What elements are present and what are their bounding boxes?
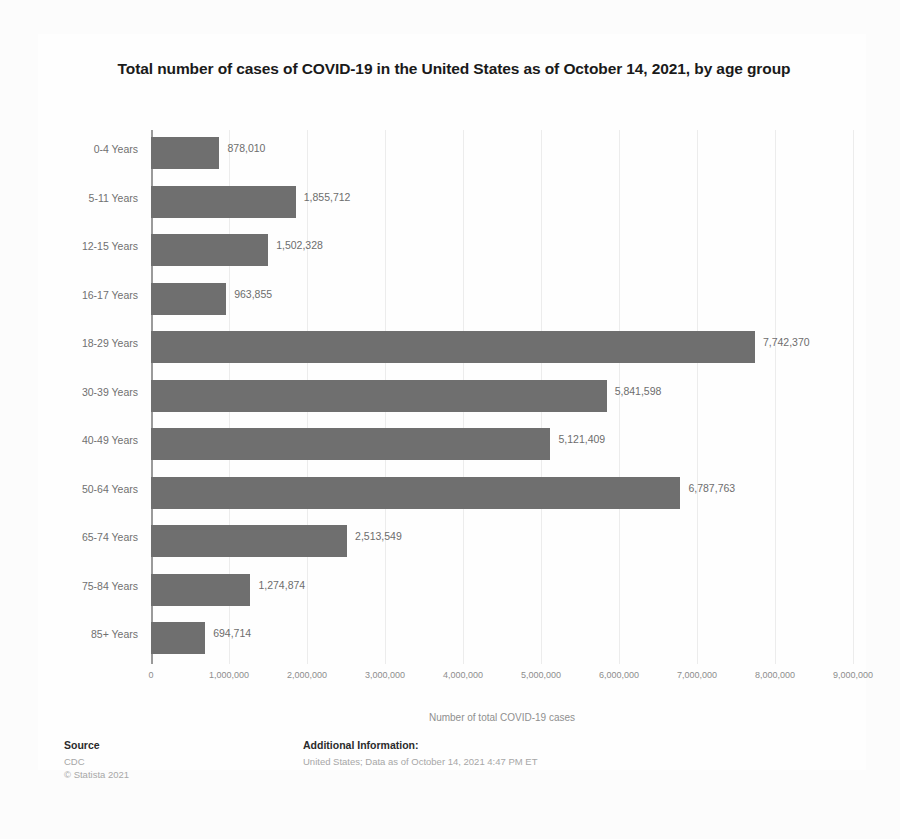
- copyright-text: © Statista 2021: [64, 768, 294, 781]
- y-axis-tick-text: 65-74 Years: [38, 531, 138, 543]
- bar-series: 878,0101,855,7121,502,328963,8557,742,37…: [151, 130, 853, 664]
- bar[interactable]: [151, 234, 268, 266]
- x-axis-tick-label: 2,000,000: [287, 670, 327, 680]
- y-axis-tick-text: 30-39 Years: [38, 386, 138, 398]
- y-axis-tick-label: 75-84 Years: [38, 567, 138, 616]
- y-axis-tick-text: 85+ Years: [38, 628, 138, 640]
- bar[interactable]: [151, 477, 680, 509]
- additional-info-heading: Additional Information:: [303, 739, 723, 751]
- x-axis-ticks: 01,000,0002,000,0003,000,0004,000,0005,0…: [151, 664, 853, 686]
- x-axis-title: Number of total COVID-19 cases: [151, 712, 853, 723]
- y-axis-tick-text: 12-15 Years: [38, 240, 138, 252]
- y-axis-tick-label: 0-4 Years: [38, 130, 138, 179]
- gridline: [853, 130, 854, 664]
- y-axis-tick-text: 75-84 Years: [38, 580, 138, 592]
- source-block: Source CDC © Statista 2021: [64, 739, 294, 781]
- additional-info-block: Additional Information: United States; D…: [303, 739, 723, 768]
- bar-row: 5,121,409: [151, 421, 853, 470]
- bar-row: 1,855,712: [151, 179, 853, 228]
- source-heading: Source: [64, 739, 294, 751]
- bar-value-label: 6,787,763: [688, 482, 735, 494]
- y-axis-tick-label: 30-39 Years: [38, 373, 138, 422]
- bar[interactable]: [151, 622, 205, 654]
- x-axis-tick-label: 3,000,000: [365, 670, 405, 680]
- chart-footer: Source CDC © Statista 2021 Additional In…: [38, 739, 866, 799]
- bar-value-label: 5,121,409: [558, 433, 605, 445]
- source-name: CDC: [64, 755, 294, 768]
- bar-value-label: 963,855: [234, 288, 272, 300]
- chart-page: Total number of cases of COVID-19 in the…: [0, 0, 900, 839]
- chart-title: Total number of cases of COVID-19 in the…: [98, 56, 810, 82]
- y-axis-tick-text: 18-29 Years: [38, 337, 138, 349]
- y-axis-tick-label: 16-17 Years: [38, 276, 138, 325]
- bar-value-label: 694,714: [213, 627, 251, 639]
- bar-row: 963,855: [151, 276, 853, 325]
- bar-row: 6,787,763: [151, 470, 853, 519]
- bar-value-label: 1,274,874: [258, 579, 305, 591]
- x-axis-tick-label: 9,000,000: [833, 670, 873, 680]
- y-axis-tick-label: 65-74 Years: [38, 518, 138, 567]
- bar[interactable]: [151, 428, 550, 460]
- y-axis-tick-text: 40-49 Years: [38, 434, 138, 446]
- bar[interactable]: [151, 283, 226, 315]
- bar-row: 1,274,874: [151, 567, 853, 616]
- y-axis-tick-text: 16-17 Years: [38, 289, 138, 301]
- x-axis-tick-label: 8,000,000: [755, 670, 795, 680]
- bar-value-label: 1,855,712: [304, 191, 351, 203]
- bar[interactable]: [151, 137, 219, 169]
- y-axis-tick-text: 5-11 Years: [38, 192, 138, 204]
- additional-info-text: United States; Data as of October 14, 20…: [303, 755, 723, 768]
- bar-row: 694,714: [151, 615, 853, 664]
- bar-value-label: 1,502,328: [276, 239, 323, 251]
- x-axis-tick-label: 1,000,000: [209, 670, 249, 680]
- x-axis-tick-label: 4,000,000: [443, 670, 483, 680]
- y-axis-tick-text: 0-4 Years: [38, 143, 138, 155]
- plot-area: 878,0101,855,7121,502,328963,8557,742,37…: [151, 130, 853, 664]
- x-axis-tick-label: 5,000,000: [521, 670, 561, 680]
- y-axis-tick-label: 5-11 Years: [38, 179, 138, 228]
- bar[interactable]: [151, 186, 296, 218]
- y-axis-tick-label: 12-15 Years: [38, 227, 138, 276]
- y-axis-category-labels: 0-4 Years5-11 Years12-15 Years16-17 Year…: [38, 130, 138, 664]
- bar-row: 2,513,549: [151, 518, 853, 567]
- y-axis-tick-label: 50-64 Years: [38, 470, 138, 519]
- x-axis-tick-label: 6,000,000: [599, 670, 639, 680]
- bar[interactable]: [151, 380, 607, 412]
- bar-value-label: 878,010: [227, 142, 265, 154]
- y-axis-tick-label: 40-49 Years: [38, 421, 138, 470]
- bar-value-label: 2,513,549: [355, 530, 402, 542]
- y-axis-tick-label: 18-29 Years: [38, 324, 138, 373]
- x-axis-tick-label: 0: [148, 670, 153, 680]
- bar-row: 1,502,328: [151, 227, 853, 276]
- bar[interactable]: [151, 574, 250, 606]
- y-axis-tick-label: 85+ Years: [38, 615, 138, 664]
- bar[interactable]: [151, 525, 347, 557]
- x-axis-tick-label: 7,000,000: [677, 670, 717, 680]
- bar-row: 878,010: [151, 130, 853, 179]
- bar-value-label: 7,742,370: [763, 336, 810, 348]
- bar-row: 5,841,598: [151, 373, 853, 422]
- bar[interactable]: [151, 331, 755, 363]
- bar-value-label: 5,841,598: [615, 385, 662, 397]
- y-axis-tick-text: 50-64 Years: [38, 483, 138, 495]
- bar-row: 7,742,370: [151, 324, 853, 373]
- chart-card: Total number of cases of COVID-19 in the…: [38, 34, 866, 770]
